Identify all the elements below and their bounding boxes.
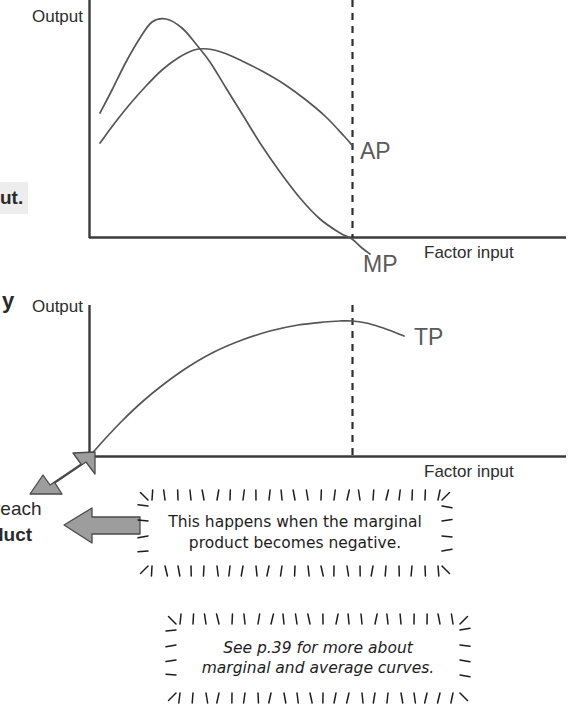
tp-curve-label: TP [414, 324, 443, 350]
callout-line-1: See p.39 for more about [189, 638, 447, 659]
block-arrow-left [64, 508, 140, 543]
callout-line-1: This happens when the marginal [161, 512, 429, 533]
callout-marginal-product: This happens when the marginal product b… [135, 487, 455, 579]
arrow-to-duct-text [64, 508, 140, 543]
tp-curve [89, 321, 404, 457]
figure-page: ut. y reach duct Output Factor input AP … [0, 0, 569, 714]
callout-text: This happens when the marginal product b… [161, 512, 429, 554]
production-curves-figure: Output Factor input AP MP Output Factor … [0, 0, 569, 714]
callout-line-2: marginal and average curves. [189, 659, 447, 680]
ap-curve [100, 49, 352, 145]
x-axis-label-bottom: Factor input [424, 462, 514, 481]
y-axis-label-top: Output [32, 7, 83, 26]
mp-curve-label: MP [363, 251, 398, 277]
callout-see-page: See p.39 for more about marginal and ave… [163, 611, 473, 706]
ap-curve-label: AP [360, 138, 391, 164]
ap-mp-chart: Output Factor input AP MP [32, 0, 566, 277]
arrow-to-tp-origin [30, 452, 95, 494]
callout-text: See p.39 for more about marginal and ave… [189, 638, 447, 680]
y-axis-label-bottom: Output [32, 297, 83, 316]
tp-chart: Output Factor input TP [32, 297, 566, 481]
block-arrow-up-right [30, 452, 95, 494]
mp-curve [100, 19, 370, 254]
x-axis-label-top: Factor input [424, 243, 514, 262]
callout-line-2: product becomes negative. [161, 533, 429, 554]
